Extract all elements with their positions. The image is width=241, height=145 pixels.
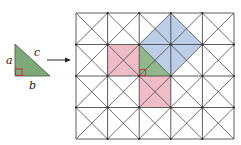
reference-triangle: a c b (6, 44, 50, 92)
pythagorean-grid-diagram: a c b (0, 0, 241, 145)
square-grid (75, 12, 235, 140)
side-label-a: a (6, 54, 13, 67)
arrow-icon (47, 58, 71, 63)
triangle-shape (15, 44, 50, 76)
side-label-c: c (34, 46, 40, 59)
side-label-b: b (29, 79, 36, 92)
